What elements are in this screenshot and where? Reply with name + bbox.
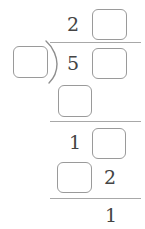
quotient-blank-ones[interactable] <box>92 9 127 40</box>
first-subtraction-blank[interactable] <box>58 85 92 117</box>
divisor-blank[interactable] <box>13 46 48 78</box>
long-division-figure: 2 5 1 2 1 <box>0 0 145 229</box>
remainder-digit: 1 <box>100 206 122 225</box>
first-subtraction-rule <box>50 121 141 122</box>
second-subtraction-rule <box>50 198 141 199</box>
quotient-digit-tens: 2 <box>62 15 84 34</box>
dividend-blank-tens[interactable] <box>92 48 127 79</box>
second-subtraction-digit-ones: 2 <box>99 168 121 187</box>
bring-down-blank-ones[interactable] <box>92 128 126 159</box>
dividend-digit-hundreds: 5 <box>62 54 84 73</box>
vinculum-rule <box>50 42 141 43</box>
bring-down-digit-tens: 1 <box>64 133 86 152</box>
second-subtraction-blank[interactable] <box>57 162 92 193</box>
